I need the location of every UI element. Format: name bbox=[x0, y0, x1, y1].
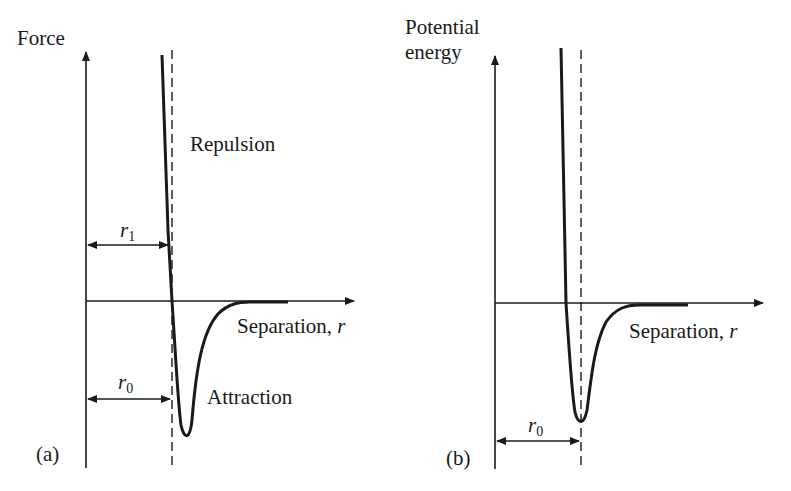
force-potential-diagram: Force Repulsion Attraction Separation, r… bbox=[0, 0, 791, 491]
r0-label-b: r0 bbox=[528, 413, 543, 439]
attraction-label: Attraction bbox=[207, 385, 293, 409]
repulsion-label: Repulsion bbox=[190, 132, 276, 156]
panel-b-potential-energy: Potential energy Separation, r (b) r0 bbox=[405, 15, 763, 470]
r1-label: r1 bbox=[120, 218, 135, 244]
force-x-axis-label: Separation, r bbox=[237, 314, 346, 338]
potential-curve bbox=[561, 48, 688, 422]
force-curve bbox=[162, 55, 288, 436]
potential-x-axis-label: Separation, r bbox=[629, 319, 738, 343]
potential-y-axis-label-line1: Potential bbox=[405, 15, 480, 39]
panel-a-force: Force Repulsion Attraction Separation, r… bbox=[17, 26, 354, 470]
panel-b-label: (b) bbox=[446, 446, 471, 470]
r0-label-a: r0 bbox=[118, 370, 133, 396]
force-y-axis-label: Force bbox=[17, 26, 65, 50]
potential-y-axis-label-line2: energy bbox=[405, 40, 462, 64]
panel-a-label: (a) bbox=[36, 442, 59, 466]
